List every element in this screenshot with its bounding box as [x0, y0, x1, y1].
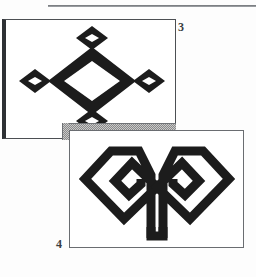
right-diamond	[133, 69, 165, 93]
figure-label-4: 4	[56, 238, 62, 250]
diamond-star-motif	[14, 25, 170, 133]
center-stem	[151, 227, 163, 236]
right-horn	[157, 151, 229, 238]
left-diamond	[19, 69, 51, 93]
left-horn	[85, 151, 157, 238]
figure-label-3: 3	[178, 21, 184, 33]
rams-horn-motif	[77, 137, 237, 241]
top-diamond	[76, 26, 108, 50]
panel-drop-shadow-corner	[62, 123, 69, 140]
figure-panel-3	[2, 19, 176, 139]
figure-panel-4	[69, 130, 244, 248]
document-page: 3 4	[0, 0, 256, 277]
horizontal-rule	[48, 5, 256, 7]
center-diamond	[48, 47, 136, 115]
